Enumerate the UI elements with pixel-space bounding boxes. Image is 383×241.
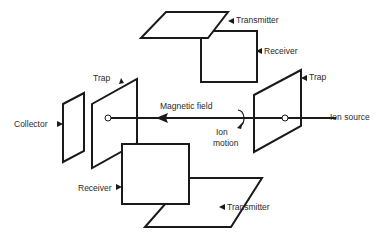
label-ion-source: Ion source — [330, 112, 370, 122]
label-receiver-top: Receiver — [264, 46, 298, 56]
collector-hole-icon — [105, 115, 111, 121]
label-collector: Collector — [14, 119, 48, 129]
transmitter-top-pointer-icon — [228, 18, 234, 24]
label-ion-motion-2: motion — [213, 138, 239, 148]
label-trap-left: Trap — [93, 73, 110, 83]
receiver-plate-bottom — [122, 144, 189, 204]
diagram-canvas — [0, 0, 383, 241]
collector-plate — [63, 93, 84, 162]
label-magnetic-field: Magnetic field — [160, 101, 212, 111]
label-ion-motion-1: Ion — [216, 127, 228, 137]
ion-motion-arrowhead-icon — [237, 122, 243, 129]
icr-cell-diagram: Transmitter Receiver Trap Trap Collector… — [0, 0, 383, 241]
receiver-plate-top — [201, 31, 257, 82]
label-trap-right: Trap — [309, 72, 326, 82]
label-transmitter-bottom: Transmitter — [227, 202, 270, 212]
label-transmitter-top: Transmitter — [236, 15, 279, 25]
ion-source-hole-icon — [282, 115, 288, 121]
trap-left-pointer-icon — [119, 78, 124, 84]
trap-plate-right — [254, 70, 301, 152]
label-receiver-bottom: Receiver — [78, 183, 112, 193]
